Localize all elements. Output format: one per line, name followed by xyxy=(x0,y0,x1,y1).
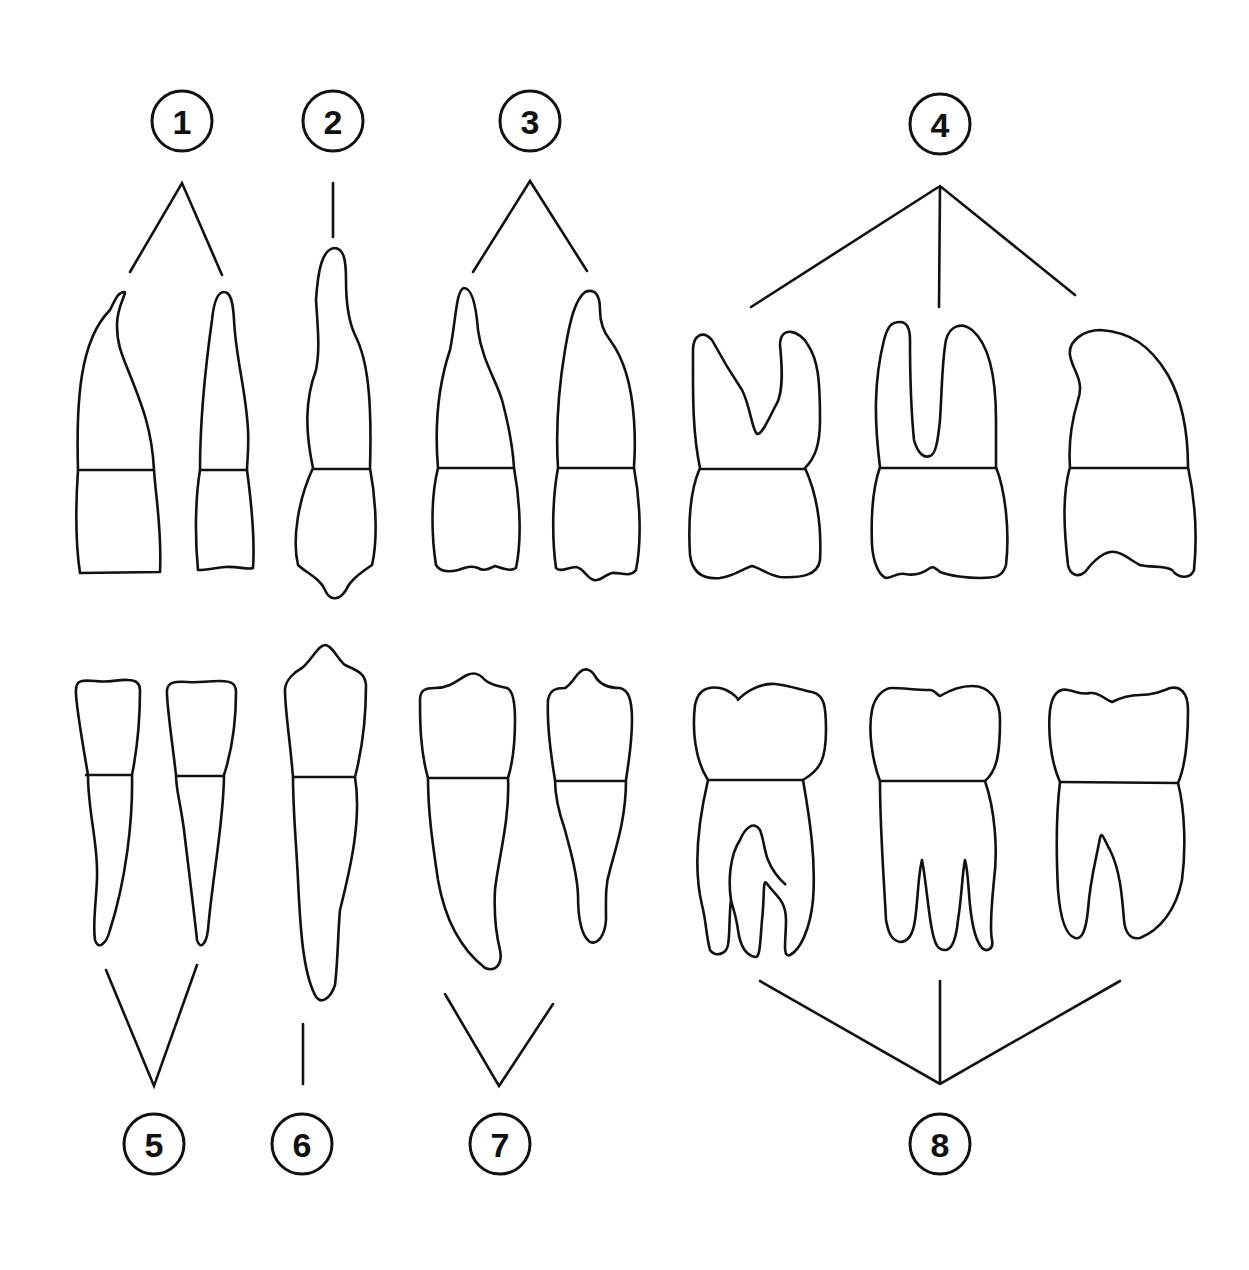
tooth-7b xyxy=(548,669,632,942)
label-5-text: 5 xyxy=(145,1126,164,1164)
label-4-text: 4 xyxy=(931,106,950,144)
label-1-text: 1 xyxy=(173,103,192,141)
label-5: 5 xyxy=(124,1114,184,1174)
tooth-8b xyxy=(870,686,1000,950)
tooth-4a xyxy=(689,332,820,578)
leader-3 xyxy=(473,181,587,272)
tooth-1a xyxy=(76,292,160,573)
label-7: 7 xyxy=(470,1114,530,1174)
label-8-text: 8 xyxy=(931,1126,950,1164)
tooth-8c xyxy=(1049,688,1188,939)
label-1: 1 xyxy=(152,91,212,151)
leader-4 xyxy=(751,186,1075,307)
label-2-text: 2 xyxy=(324,103,343,141)
label-4: 4 xyxy=(910,94,970,154)
leader-7 xyxy=(445,994,553,1086)
label-3-text: 3 xyxy=(521,103,540,141)
label-6: 6 xyxy=(272,1114,332,1174)
tooth-3a xyxy=(433,288,520,571)
label-8: 8 xyxy=(910,1114,970,1174)
leader-1 xyxy=(130,183,222,275)
label-6-text: 6 xyxy=(293,1126,312,1164)
label-7-text: 7 xyxy=(491,1126,510,1164)
teeth-diagram: 1 2 3 4 xyxy=(0,0,1249,1270)
tooth-5b xyxy=(167,681,236,945)
tooth-7a xyxy=(420,673,515,969)
tooth-2 xyxy=(296,248,376,598)
label-3: 3 xyxy=(500,91,560,151)
leader-5 xyxy=(106,965,197,1086)
label-2: 2 xyxy=(303,91,363,151)
tooth-4b xyxy=(872,322,1008,578)
tooth-6 xyxy=(285,645,366,1000)
leader-8 xyxy=(760,981,1120,1084)
tooth-4c xyxy=(1065,330,1196,577)
tooth-5a xyxy=(76,680,140,945)
tooth-3b xyxy=(553,291,639,580)
tooth-8a xyxy=(694,684,826,957)
tooth-1b xyxy=(196,292,254,570)
